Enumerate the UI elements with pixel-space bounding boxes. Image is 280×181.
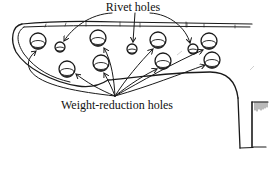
weight-hole-icon bbox=[59, 61, 75, 78]
weight-hole-icon bbox=[93, 55, 109, 72]
weight-hole-icon bbox=[90, 30, 106, 47]
rivet-holes-label: Rivet holes bbox=[106, 0, 161, 14]
weight-hole-icon bbox=[30, 33, 46, 50]
plate-diagram: Rivet holes Weight-reduction holes bbox=[0, 0, 280, 181]
weight-hole-icon bbox=[204, 52, 220, 69]
plate-outline bbox=[13, 21, 268, 148]
weight-reduction-holes-label: Weight-reduction holes bbox=[61, 98, 173, 112]
weight-hole-icon bbox=[201, 33, 217, 50]
rivet-holes bbox=[55, 42, 198, 54]
rivet-hole-icon bbox=[55, 42, 65, 52]
rivet-arrows bbox=[64, 13, 190, 43]
weight-hole-icon bbox=[150, 32, 166, 49]
weight-reduction-arrows bbox=[28, 48, 205, 96]
rivet-hole-icon bbox=[127, 44, 137, 54]
